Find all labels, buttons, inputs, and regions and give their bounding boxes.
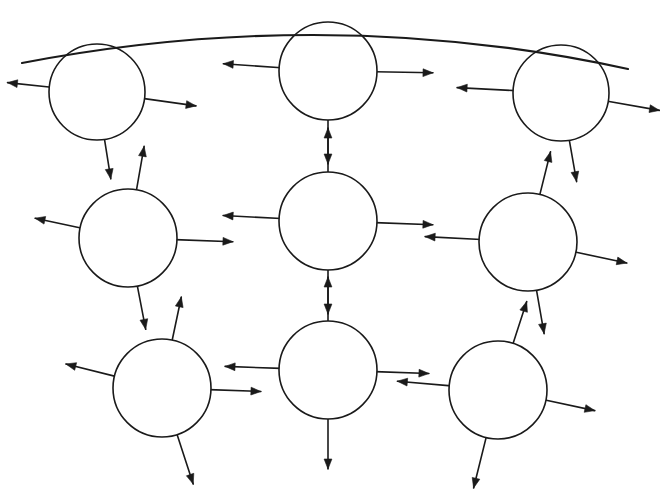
node-bottom-right-arrow-down-left[interactable] xyxy=(472,436,486,488)
node-bottom-center-arrow-left[interactable] xyxy=(225,363,281,371)
node-top-left-arrow-right-head xyxy=(186,101,196,109)
node-middle-left-arrow-right-head xyxy=(223,237,233,245)
node-bottom-center-arrow-right-head xyxy=(419,369,429,377)
node-bottom-right-arrow-right-down[interactable] xyxy=(544,400,595,413)
node-bottom-left-arrow-right-head xyxy=(251,387,261,395)
node-top-left-arrow-left-down-head xyxy=(8,80,18,88)
node-bottom-center[interactable] xyxy=(279,321,377,419)
diagram-canvas xyxy=(0,0,660,496)
node-top-left-arrow-down-head xyxy=(105,168,113,179)
node-middle-left-arrow-up[interactable] xyxy=(136,146,146,191)
node-middle-right-circle[interactable] xyxy=(479,193,577,291)
node-bottom-right-arrow-up-right-head xyxy=(520,302,528,313)
node-middle-left-arrow-right[interactable] xyxy=(175,237,233,245)
node-top-right-arrow-left[interactable] xyxy=(457,84,515,92)
node-middle-left-arrow-up-head xyxy=(139,146,147,157)
node-bottom-center-arrow-up-head xyxy=(324,277,332,287)
node-bottom-left-arrow-down-right-head xyxy=(186,473,193,484)
node-top-left[interactable] xyxy=(49,44,145,140)
node-bottom-left-arrow-up-right[interactable] xyxy=(172,297,183,342)
node-middle-right-arrow-right-down[interactable] xyxy=(574,252,627,265)
node-top-center-arrow-left[interactable] xyxy=(223,61,281,69)
node-middle-right-arrow-left[interactable] xyxy=(425,233,481,241)
node-middle-right-arrow-down-head xyxy=(539,323,547,334)
node-bottom-center-arrow-down[interactable] xyxy=(324,417,332,469)
node-top-left-arrow-right[interactable] xyxy=(143,98,196,108)
node-top-right-arrow-down[interactable] xyxy=(569,138,579,181)
node-middle-right-arrow-right-down-head xyxy=(616,257,627,265)
node-bottom-center-circle[interactable] xyxy=(279,321,377,419)
node-middle-left-arrow-left-down[interactable] xyxy=(35,217,82,229)
node-bottom-right-arrow-left[interactable] xyxy=(397,378,451,386)
node-bottom-center-arrow-up[interactable] xyxy=(324,277,332,323)
node-middle-right-arrow-down[interactable] xyxy=(536,288,546,333)
node-middle-left-arrow-down[interactable] xyxy=(137,284,148,329)
node-middle-center-arrow-up-head xyxy=(324,128,332,138)
node-middle-center-arrow-up[interactable] xyxy=(324,128,332,174)
node-top-center-arrow-left-head xyxy=(223,61,233,69)
node-middle-right[interactable] xyxy=(479,193,577,291)
node-bottom-left-arrow-left-up-head xyxy=(66,363,77,371)
node-middle-right-arrow-up-right[interactable] xyxy=(539,152,552,197)
node-middle-left-arrow-down-head xyxy=(140,319,148,330)
node-top-left-arrow-left-down[interactable] xyxy=(8,80,52,88)
node-middle-center-circle[interactable] xyxy=(279,172,377,270)
node-bottom-left-arrow-up-right-head xyxy=(175,297,183,308)
node-middle-right-arrow-up-right-head xyxy=(544,152,552,163)
node-bottom-right-arrow-left-head xyxy=(397,378,407,386)
node-arrow-diagram xyxy=(0,0,660,496)
node-bottom-right[interactable] xyxy=(449,341,547,439)
node-middle-center-arrow-right-head xyxy=(423,220,433,228)
node-bottom-left-arrow-right[interactable] xyxy=(209,387,261,395)
node-middle-center-arrow-right[interactable] xyxy=(375,220,433,228)
node-top-center-arrow-right[interactable] xyxy=(375,69,433,77)
node-bottom-right-arrow-down-left-head xyxy=(472,477,480,488)
node-bottom-left-circle[interactable] xyxy=(113,339,211,437)
node-middle-center-arrow-left[interactable] xyxy=(223,212,281,220)
node-middle-left[interactable] xyxy=(79,189,177,287)
node-bottom-center-arrow-left-head xyxy=(225,363,235,371)
nodes-layer xyxy=(49,22,609,439)
node-middle-center[interactable] xyxy=(279,172,377,270)
node-middle-left-circle[interactable] xyxy=(79,189,177,287)
node-top-center-arrow-right-head xyxy=(423,69,433,77)
node-top-right-arrow-right-down[interactable] xyxy=(606,101,659,113)
node-bottom-right-circle[interactable] xyxy=(449,341,547,439)
node-middle-right-arrow-left-head xyxy=(425,233,435,241)
node-top-left-circle[interactable] xyxy=(49,44,145,140)
node-bottom-right-arrow-up-right[interactable] xyxy=(513,302,528,346)
node-bottom-right-arrow-right-down-head xyxy=(584,405,595,413)
node-bottom-left-arrow-down-right[interactable] xyxy=(177,433,194,484)
node-bottom-left-arrow-left-up[interactable] xyxy=(66,363,117,377)
node-top-left-arrow-down[interactable] xyxy=(104,137,113,179)
node-top-right-circle[interactable] xyxy=(513,45,609,141)
node-top-right[interactable] xyxy=(513,45,609,141)
node-top-right-arrow-right-down-head xyxy=(649,105,660,113)
node-bottom-center-arrow-right[interactable] xyxy=(375,369,429,377)
node-top-right-arrow-left-head xyxy=(457,84,467,92)
node-bottom-left[interactable] xyxy=(113,339,211,437)
node-middle-left-arrow-left-down-head xyxy=(35,217,46,225)
node-middle-center-arrow-left-head xyxy=(223,212,233,220)
node-top-right-arrow-down-head xyxy=(571,171,579,182)
node-bottom-center-arrow-down-head xyxy=(324,459,332,469)
